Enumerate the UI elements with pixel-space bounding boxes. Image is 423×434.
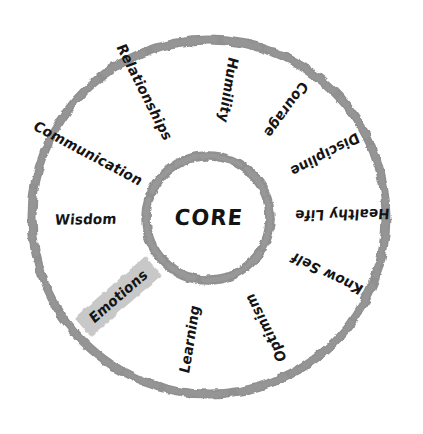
segment-label-healthy-life[interactable]: Healthy Life (295, 206, 390, 224)
segment-label-text: Healthy Life (294, 205, 390, 224)
segment-label-text: Wisdom (54, 210, 117, 228)
core-label: CORE (175, 206, 244, 230)
segment-label-wisdom[interactable]: Wisdom (55, 211, 117, 228)
